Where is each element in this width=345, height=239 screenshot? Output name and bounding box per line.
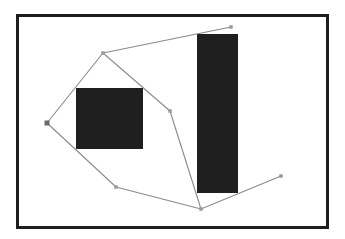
obstacle-tall-bar	[197, 34, 238, 193]
waypoint-n-middle	[168, 109, 172, 113]
waypoint-n-bottom-center	[199, 207, 203, 211]
diagram-frame	[18, 16, 328, 228]
diagram-canvas	[0, 0, 345, 239]
waypoint-n-bottom-left	[114, 185, 118, 189]
obstacle-square	[76, 88, 143, 149]
waypoint-n-left	[45, 121, 50, 126]
waypoint-n-top-right	[229, 25, 233, 29]
waypoint-n-right	[279, 174, 283, 178]
waypoint-n-top-left	[101, 51, 105, 55]
